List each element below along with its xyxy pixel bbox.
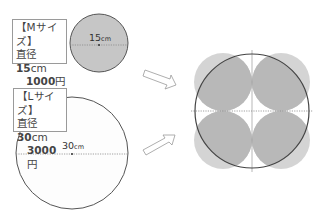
m-size-pizza [70,14,128,72]
diameter-unit: cm [32,131,48,143]
price-unit: 円 [55,75,65,87]
m-size-label-box: 【Mサイズ】 直径 15cm 1000円 [12,19,67,64]
m-dimension-label: 15cm [89,32,111,43]
arrow-down-right-icon [143,70,176,89]
l-size-price: 3000円 [17,144,66,171]
dimension-unit: cm [74,143,84,151]
price-unit: 円 [27,158,37,170]
diameter-value: 30 [17,131,32,143]
m-size-price: 1000円 [16,75,66,89]
price-value: 1000 [26,75,55,87]
diameter-prefix: 直径 [16,48,36,60]
l-dimension-label: 30cm [62,140,84,151]
l-size-diameter: 直径 30cm [17,117,66,144]
l-size-label-box: 【Lサイズ】 直径 30cm 3000円 [13,88,67,132]
diameter-prefix: 直径 [17,117,37,129]
arrow-up-right-icon [143,135,175,155]
diameter-unit: cm [31,62,47,74]
m-size-diameter: 直径 15cm [16,48,66,75]
comparison-diagram [191,50,313,172]
l-size-title: 【Lサイズ】 [17,90,66,117]
dimension-value: 30 [62,140,74,151]
price-value: 3000 [27,144,56,156]
dimension-value: 15 [89,32,101,43]
dimension-unit: cm [101,35,111,43]
diameter-value: 15 [16,62,31,74]
m-size-title: 【Mサイズ】 [16,21,66,48]
